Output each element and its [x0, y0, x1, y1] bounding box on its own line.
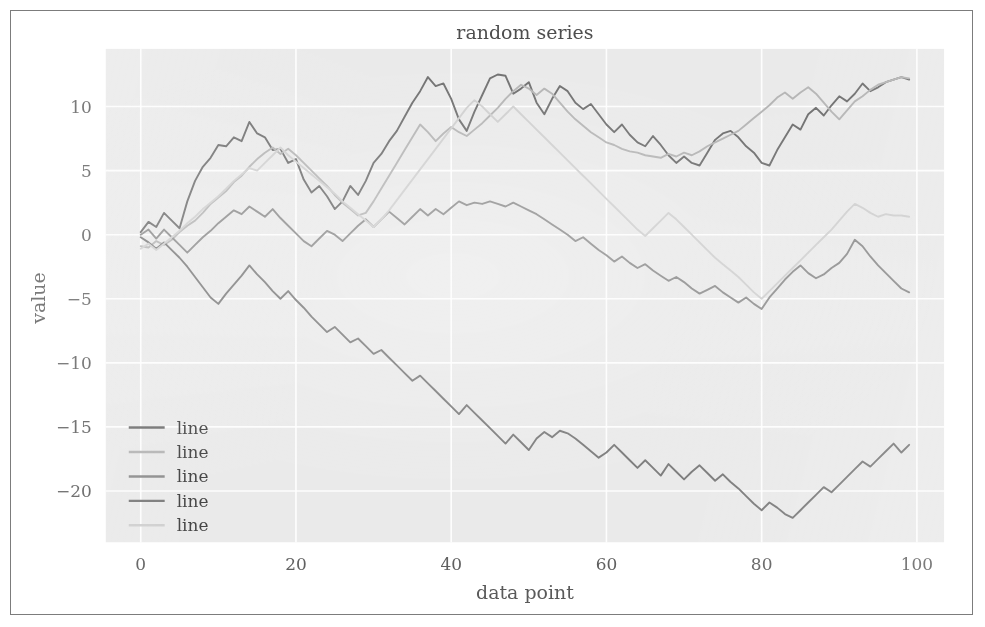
y-tick-label-0: 10 — [70, 97, 92, 117]
x-tick-label-0: 0 — [135, 554, 146, 574]
y-axis-label: value — [27, 272, 49, 324]
y-tick-label-5: −15 — [56, 417, 92, 437]
x-tick-label-5: 100 — [901, 554, 933, 574]
x-tick-label-2: 40 — [440, 554, 462, 574]
chart-title: random series — [456, 21, 593, 43]
legend-label-text-1: line — [177, 442, 209, 462]
legend-label-text-3: line — [177, 491, 209, 511]
y-tick-label-4: −10 — [56, 353, 92, 373]
legend-label-text-2: line — [177, 466, 209, 486]
x-tick-label-1: 20 — [285, 554, 307, 574]
x-tick-label-4: 80 — [751, 554, 773, 574]
legend-label-text-4: line — [177, 515, 209, 535]
y-tick-label-6: −20 — [56, 481, 92, 501]
x-axis-tick-labels: 020406080100 — [135, 554, 933, 574]
y-tick-label-2: 0 — [81, 225, 92, 245]
y-tick-label-1: 5 — [81, 161, 92, 181]
y-tick-label-3: −5 — [67, 289, 92, 309]
figure-frame: 020406080100 1050−5−10−15−20 data point … — [10, 10, 973, 615]
x-tick-label-3: 60 — [596, 554, 618, 574]
plot-area-background — [106, 49, 944, 542]
x-axis-label: data point — [476, 581, 574, 603]
legend-label-text-0: line — [177, 418, 209, 438]
y-axis-tick-labels: 1050−5−10−15−20 — [56, 97, 92, 501]
chart-canvas: 020406080100 1050−5−10−15−20 data point … — [11, 11, 972, 614]
